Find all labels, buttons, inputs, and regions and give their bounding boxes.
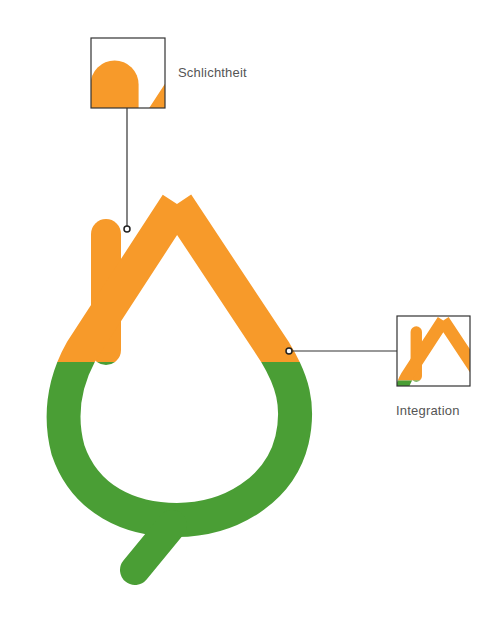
callout-dot-roof <box>286 348 292 354</box>
callout-integration-detail <box>286 316 488 460</box>
callout-dot-chimney <box>124 226 130 232</box>
callout-label-integration: Integration <box>396 403 460 418</box>
callout-label-schlichtheit: Schlichtheit <box>178 65 247 80</box>
logo-diagram <box>0 0 500 628</box>
